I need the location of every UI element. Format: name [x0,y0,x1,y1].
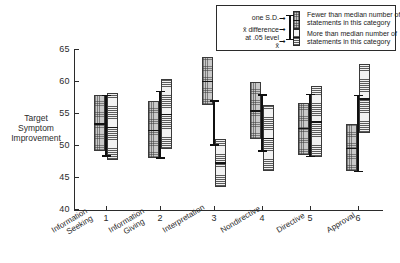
mean-line-more-5 [311,121,322,122]
mean-line-more-1 [107,127,118,128]
mean-line-fewer-2 [148,130,159,131]
difference-cap-bottom-5 [306,156,315,157]
difference-bar-5 [309,94,311,156]
x-tick-6 [358,206,359,210]
difference-bar-6 [357,95,359,171]
x-tick-label-1: 1 [99,213,113,223]
legend-entry-fewer-line-2: statements in this category [307,19,390,27]
y-tick-label-60: 60 [48,76,70,86]
legend-difference-cap-top [286,15,294,16]
x-tick-4 [262,206,263,210]
x-tick-5 [310,206,311,210]
difference-cap-bottom-1 [102,155,111,156]
y-axis-title-line-2: Symptom [2,123,70,133]
y-tick-label-45: 45 [48,172,70,182]
x-axis-line [74,210,383,211]
legend-swatch-fewer-mean-line [293,20,300,21]
difference-cap-top-4 [258,94,267,95]
difference-cap-top-2 [156,91,165,92]
y-tick-label-65: 65 [48,44,70,54]
mean-line-more-3 [215,162,226,163]
difference-cap-bottom-6 [354,171,363,172]
y-tick-65 [75,49,79,50]
x-tick-3 [214,206,215,210]
y-tick-60 [75,81,79,82]
difference-bar-3 [213,100,215,144]
legend-diff-label-line-2: at .05 level [219,34,279,42]
difference-cap-top-1 [102,95,111,96]
difference-cap-top-3 [210,100,219,101]
legend-swatch-more-mean-line [293,37,300,38]
mean-line-more-6 [359,98,370,99]
y-axis-title-line-1: Target [2,113,70,123]
y-axis-line [74,49,75,211]
legend-diff-arrow-icon: ➞ [279,25,286,34]
mean-line-fewer-5 [298,128,309,129]
mean-line-fewer-3 [202,81,213,82]
x-tick-2 [160,206,161,210]
y-tick-50 [75,145,79,146]
y-axis-title: Target Symptom Improvement [2,113,70,143]
mean-line-fewer-4 [250,110,261,111]
difference-bar-1 [105,95,107,155]
difference-cap-bottom-4 [258,150,267,151]
category-label-2: Information Giving [107,206,151,242]
legend-sd-arrow-icon: ➞ [279,14,286,23]
difference-cap-bottom-3 [210,144,219,145]
y-tick-45 [75,177,79,178]
difference-cap-top-5 [306,94,315,95]
mean-line-more-4 [263,138,274,139]
y-axis-title-line-3: Improvement [2,133,70,143]
legend-difference-bar [289,15,291,40]
mean-line-more-2 [161,114,172,115]
category-label-3: Interpretation [161,203,206,235]
legend-entry-more-line-2: statements in this category [307,38,390,46]
y-tick-label-40: 40 [48,204,70,214]
difference-bar-4 [261,94,263,150]
legend-mean-label: x̄ [261,42,279,50]
mean-line-fewer-1 [94,123,105,124]
y-tick-55 [75,113,79,114]
legend-difference-cap-bottom [286,39,294,40]
category-label-3-line-1: Interpretation [161,203,206,235]
legend-diff-label-line-1: x̄ difference [219,26,279,34]
x-tick-1 [106,206,107,210]
legend-sd-label: one S.D. [223,14,279,22]
x-tick-label-3: 3 [207,213,221,223]
x-tick-label-2: 2 [153,213,167,223]
category-label-5: Directive [275,211,306,235]
difference-bar-2 [159,91,161,158]
category-label-5-line-1: Directive [275,211,306,235]
difference-cap-top-6 [354,95,363,96]
legend-mean-arrow-icon: ➞ [279,37,286,46]
difference-cap-bottom-2 [156,157,165,158]
chart-legend: one S.D. x̄ difference at .05 level x̄ ➞… [216,5,396,51]
mean-line-fewer-6 [346,148,357,149]
